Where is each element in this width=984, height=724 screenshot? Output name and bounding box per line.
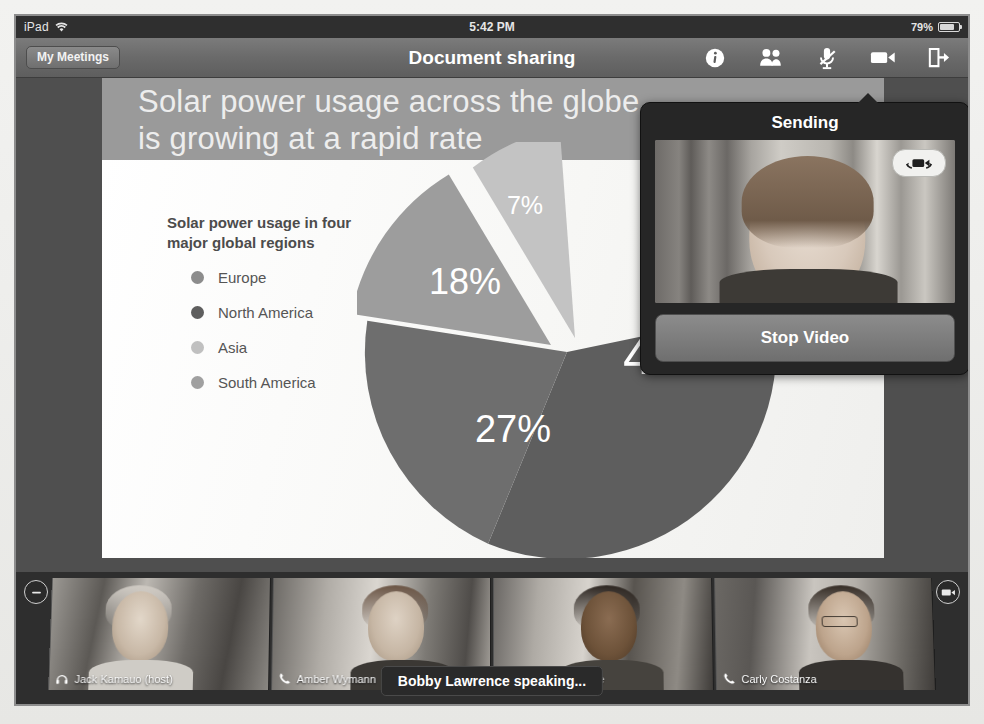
legend-label: South America	[218, 374, 316, 391]
speaking-indicator-banner: Bobby Lawrence speaking...	[381, 666, 603, 696]
carrier-label: iPad	[24, 20, 49, 34]
participant-caption: Amber Wymann	[278, 672, 376, 685]
camera-flip-icon[interactable]	[892, 149, 946, 177]
participants-icon[interactable]	[758, 45, 784, 71]
participant-filmstrip: Jack Kamauo (host)	[16, 572, 968, 704]
wifi-icon	[55, 22, 68, 33]
self-view-hair	[742, 156, 874, 248]
video-camera-circle-icon[interactable]	[936, 580, 960, 604]
participant-face	[368, 592, 424, 662]
app-navigation-bar: My Meetings Document sharing	[16, 38, 968, 78]
nav-actions	[702, 45, 958, 71]
self-view-title: Sending	[655, 113, 955, 133]
participant-name: Amber Wymann	[297, 673, 376, 685]
pie-label-asia: 7%	[507, 191, 543, 219]
microphone-muted-icon[interactable]	[814, 45, 840, 71]
leave-meeting-icon[interactable]	[926, 45, 952, 71]
legend-swatch-icon	[191, 376, 204, 389]
info-icon[interactable]	[702, 45, 728, 71]
ios-status-bar: iPad 5:42 PM 79%	[16, 16, 968, 38]
pie-label-europe: 18%	[429, 261, 501, 302]
video-camera-icon[interactable]	[870, 45, 896, 71]
legend-swatch-icon	[191, 306, 204, 319]
participant-caption: Jack Kamauo (host)	[55, 672, 173, 685]
battery-percent-label: 79%	[911, 21, 933, 33]
legend-swatch-icon	[191, 271, 204, 284]
participant-name: Jack Kamauo (host)	[74, 673, 173, 685]
participant-tile[interactable]: Carly Costanza	[714, 578, 936, 690]
legend-label: North America	[218, 304, 313, 321]
participant-face	[581, 592, 638, 662]
my-meetings-back-button[interactable]: My Meetings	[26, 46, 120, 69]
shared-document-stage: Solar power usage across the globe is gr…	[16, 78, 968, 704]
status-bar-right: 79%	[911, 21, 960, 33]
screenshot-root: iPad 5:42 PM 79% My Meetings Document sh…	[0, 0, 984, 724]
self-view-torso	[720, 269, 898, 303]
pie-label-south-america: 27%	[475, 408, 551, 450]
participant-face	[111, 592, 169, 662]
phone-icon	[278, 672, 291, 685]
battery-icon	[938, 22, 960, 32]
legend-label: Asia	[218, 339, 247, 356]
self-view-popover: Sending	[640, 102, 970, 375]
self-view-video	[655, 140, 955, 303]
participant-tile[interactable]: Jack Kamauo (host)	[48, 578, 270, 690]
status-bar-left: iPad	[24, 20, 68, 34]
ipad-device-frame: iPad 5:42 PM 79% My Meetings Document sh…	[14, 14, 970, 706]
participant-name: Carly Costanza	[741, 673, 817, 685]
minus-circle-icon[interactable]	[24, 580, 48, 604]
status-bar-clock: 5:42 PM	[16, 20, 968, 34]
headset-icon	[55, 672, 68, 685]
participant-caption: Carly Costanza	[722, 672, 817, 685]
legend-label: Europe	[218, 269, 266, 286]
legend-swatch-icon	[191, 341, 204, 354]
stop-video-button[interactable]: Stop Video	[655, 314, 955, 362]
participant-glasses	[822, 616, 858, 627]
phone-icon	[722, 672, 735, 685]
